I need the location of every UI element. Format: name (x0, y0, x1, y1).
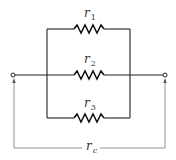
equivalent-resistance-bracket: rc (12, 78, 166, 155)
right-terminal-icon (163, 73, 167, 77)
resistor-r3-icon (74, 114, 104, 122)
arrow-up-left-icon (12, 78, 15, 83)
left-terminal-icon (11, 73, 15, 77)
branch-r1: r1 (47, 6, 130, 33)
label-r2: r2 (84, 52, 96, 68)
label-rc: rc (86, 139, 98, 155)
arrow-up-right-icon (163, 78, 166, 83)
branch-r2: r2 (15, 52, 163, 79)
label-r3: r3 (84, 96, 96, 112)
circuit-diagram: r1 r2 r3 rc (0, 0, 176, 160)
resistor-r1-icon (74, 25, 104, 33)
branch-r3: r3 (47, 96, 130, 122)
resistor-r2-icon (74, 71, 104, 79)
label-r1: r1 (84, 6, 96, 22)
